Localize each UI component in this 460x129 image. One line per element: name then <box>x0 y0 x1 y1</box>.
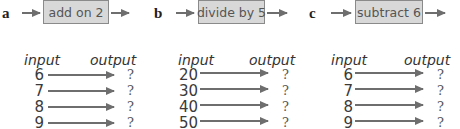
mapping-row: 9 ? <box>307 114 457 129</box>
mapping-arrow <box>200 72 268 74</box>
mapping-arrow <box>355 120 423 122</box>
mapping-arrow <box>355 104 423 106</box>
input-value: 50 <box>174 114 198 129</box>
panel-letter: c <box>309 5 316 22</box>
arrow-into-machine <box>22 12 40 14</box>
mapping-arrow <box>48 90 114 92</box>
function-machine-box: subtract 6 <box>355 0 423 24</box>
arrow-out-of-machine <box>425 12 445 14</box>
output-value: ? <box>127 114 134 129</box>
mapping-arrow <box>48 106 114 108</box>
mapping-arrow <box>355 72 423 74</box>
arrow-into-machine <box>331 12 351 14</box>
mapping-row: 50 ? <box>152 114 302 129</box>
panel-b: b divide by 5 input output 20 ? 30 ? 40 … <box>152 0 302 129</box>
mapping-arrow <box>48 122 114 124</box>
panel-letter: a <box>2 5 10 22</box>
mapping-arrow <box>200 104 268 106</box>
mapping-arrow <box>200 120 268 122</box>
arrow-out-of-machine <box>267 12 287 14</box>
panel-letter: b <box>154 5 162 22</box>
panel-a: a add on 2 input output 6 ? 7 ? 8 ? 9 ? <box>0 0 150 129</box>
input-value: 9 <box>329 114 353 129</box>
output-value: ? <box>437 114 444 129</box>
output-value: ? <box>282 114 289 129</box>
arrow-out-of-machine <box>111 12 129 14</box>
arrow-into-machine <box>176 12 194 14</box>
function-machine-box: divide by 5 <box>198 0 265 24</box>
mapping-arrow <box>355 88 423 90</box>
input-value: 9 <box>20 114 44 129</box>
mapping-arrow <box>200 88 268 90</box>
mapping-arrow <box>48 74 114 76</box>
mapping-row: 9 ? <box>0 114 150 129</box>
panel-c: c subtract 6 input output 6 ? 7 ? 8 ? 9 … <box>307 0 457 129</box>
function-machine-box: add on 2 <box>43 0 109 24</box>
